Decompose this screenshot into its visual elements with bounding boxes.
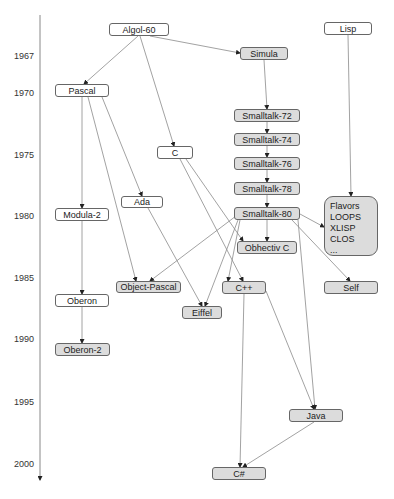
node-modula-2: Modula-2 (55, 208, 109, 221)
node-oberon: Oberon (55, 294, 109, 307)
year-label-1967: 1967 (14, 51, 38, 61)
node-object-pascal: Object-Pascal (116, 281, 181, 293)
lisp-family-xlisp: XLISP (330, 223, 356, 234)
node-ada: Ada (121, 196, 163, 208)
year-label-1985: 1985 (14, 273, 38, 283)
node-java: Java (289, 409, 343, 422)
edges (82, 35, 351, 467)
year-label-1990: 1990 (14, 334, 38, 344)
node-algol60: Algol-60 (109, 23, 169, 36)
node-smalltalk-72: Smalltalk-72 (234, 109, 300, 122)
node-self: Self (324, 281, 378, 294)
lisp-family-loops: LOOPS (330, 212, 361, 223)
year-label-2000: 2000 (14, 459, 38, 469)
lisp-family-flavors: Flavors (330, 201, 360, 212)
node-smalltalk-80: Smalltalk-80 (234, 207, 300, 220)
year-label-1975: 1975 (14, 150, 38, 160)
node-cpp: C++ (222, 281, 266, 294)
node-oberon-2: Oberon-2 (55, 343, 110, 356)
node-pascal: Pascal (55, 84, 109, 97)
node-objective-c: Obhectiv C (237, 241, 297, 254)
node-simula: Simula (240, 47, 288, 60)
node-lisp: Lisp (324, 22, 372, 35)
node-smalltalk-76: Smalltalk-76 (234, 157, 300, 170)
node-eiffel: Eiffel (182, 306, 222, 319)
node-c: C (157, 146, 193, 159)
node-csharp: C# (212, 467, 266, 480)
year-label-1970: 1970 (14, 88, 38, 98)
node-smalltalk-78: Smalltalk-78 (234, 182, 300, 195)
lisp-family-ellipsis: ... (330, 245, 338, 256)
year-label-1980: 1980 (14, 211, 38, 221)
node-lisp-family: Flavors LOOPS XLISP CLOS ... (324, 196, 378, 256)
node-smalltalk-74: Smalltalk-74 (234, 133, 300, 146)
lisp-family-clos: CLOS (330, 234, 355, 245)
year-label-1995: 1995 (14, 397, 38, 407)
